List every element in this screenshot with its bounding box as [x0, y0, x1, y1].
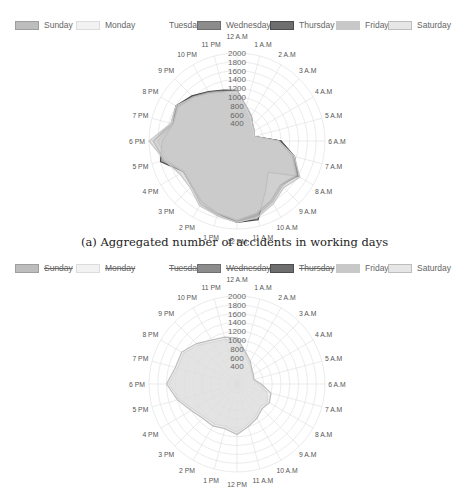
legend-swatch — [76, 264, 100, 273]
legend-label: Monday — [105, 20, 135, 30]
hour-label: 1 A.M — [254, 41, 272, 48]
hour-label: 9 PM — [158, 67, 174, 74]
hour-label: 9 A.M — [299, 451, 317, 458]
hour-label: 7 PM — [132, 355, 148, 362]
hour-label: 5 A.M — [325, 355, 343, 362]
legend-swatch — [270, 21, 294, 30]
hour-label: 11 A.M — [253, 477, 274, 484]
hour-label: 8 PM — [142, 331, 158, 338]
legend-bottom: SundayMondayTuesdayWednesdayThursdayFrid… — [0, 261, 469, 275]
hour-label: 2 A.M — [278, 51, 296, 58]
radial-tick-label: 400 — [230, 119, 244, 128]
legend-label: Saturday — [417, 263, 451, 273]
hour-label: 4 A.M — [315, 88, 333, 95]
radial-tick-label: 600 — [230, 111, 244, 120]
radial-tick-label: 1000 — [228, 93, 246, 102]
hour-label: 9 PM — [158, 310, 174, 317]
hour-label: 4 A.M — [315, 331, 333, 338]
hour-label: 11 PM — [202, 41, 221, 48]
radial-tick-label: 1800 — [228, 58, 246, 67]
hour-label: 6 PM — [129, 138, 145, 145]
hour-label: 11 PM — [202, 284, 221, 291]
legend-swatch — [140, 21, 164, 30]
hour-label: 4 PM — [142, 431, 158, 438]
hour-label: 6 PM — [129, 381, 145, 388]
legend-swatch — [336, 21, 360, 30]
hour-label: 12 PM — [227, 481, 247, 488]
legend-swatch — [76, 21, 100, 30]
hour-label: 7 PM — [132, 112, 148, 119]
legend-item-monday[interactable]: Monday — [76, 261, 135, 275]
legend-swatch — [197, 264, 221, 273]
legend-item-sunday[interactable]: Sunday — [15, 261, 73, 275]
legend-swatch — [140, 264, 164, 273]
legend-label: Thursday — [299, 20, 334, 30]
legend-item-friday[interactable]: Friday — [336, 261, 389, 275]
legend-item-wednesday[interactable]: Wednesday — [197, 261, 271, 275]
hour-label: 3 PM — [158, 451, 174, 458]
hour-label: 3 PM — [158, 208, 174, 215]
legend-swatch — [197, 21, 221, 30]
legend-swatch — [388, 21, 412, 30]
legend-label: Monday — [105, 263, 135, 273]
hour-label: 8 PM — [142, 88, 158, 95]
hour-label: 3 A.M — [299, 67, 317, 74]
radial-tick-label: 1000 — [228, 336, 246, 345]
hour-label: 10 A.M — [276, 224, 297, 231]
radial-tick-label: 2000 — [228, 292, 246, 301]
radar-chart-weekend: 40060080010001200140016001800200012 A.M1… — [0, 276, 469, 488]
legend-item-tuesday[interactable]: Tuesday — [140, 261, 201, 275]
legend-item-saturday[interactable]: Saturday — [388, 261, 451, 275]
radial-tick-label: 2000 — [228, 49, 246, 58]
hour-label: 6 A.M — [328, 381, 346, 388]
radial-tick-label: 600 — [230, 354, 244, 363]
hour-label: 10 PM — [177, 294, 197, 301]
hour-label: 1 A.M — [254, 284, 272, 291]
radial-tick-label: 400 — [230, 362, 244, 371]
radial-tick-label: 1600 — [228, 310, 246, 319]
hour-label: 6 A.M — [328, 138, 346, 145]
radar-chart-working-days: 40060080010001200140016001800200012 A.M1… — [0, 30, 469, 250]
hour-label: 9 A.M — [299, 208, 317, 215]
hour-label: 8 A.M — [315, 431, 333, 438]
hour-label: 12 A.M — [226, 276, 247, 283]
caption-a: (a) Aggregated number of accidents in wo… — [0, 235, 469, 249]
hour-label: 7 A.M — [325, 406, 343, 413]
legend-item-thursday[interactable]: Thursday — [270, 261, 334, 275]
legend-swatch — [15, 21, 39, 30]
radial-tick-label: 1600 — [228, 67, 246, 76]
hour-label: 2 PM — [179, 224, 195, 231]
legend-label: Sunday — [44, 20, 73, 30]
hour-label: 5 A.M — [325, 112, 343, 119]
radial-tick-label: 1800 — [228, 301, 246, 310]
legend-label: Saturday — [417, 20, 451, 30]
hour-label: 2 A.M — [278, 294, 296, 301]
hour-label: 5 PM — [132, 163, 148, 170]
legend-swatch — [270, 264, 294, 273]
legend-swatch — [15, 264, 39, 273]
radial-tick-label: 800 — [230, 345, 244, 354]
hour-label: 7 A.M — [325, 163, 343, 170]
legend-swatch — [388, 264, 412, 273]
legend-label: Wednesday — [226, 263, 271, 273]
hour-label: 3 A.M — [299, 310, 317, 317]
hour-label: 12 A.M — [226, 33, 247, 40]
legend-swatch — [336, 264, 360, 273]
radial-tick-label: 800 — [230, 102, 244, 111]
hour-label: 2 PM — [179, 467, 195, 474]
radial-tick-label: 1400 — [228, 318, 246, 327]
legend-label: Sunday — [44, 263, 73, 273]
hour-label: 1 PM — [203, 477, 219, 484]
legend-label: Thursday — [299, 263, 334, 273]
radial-tick-label: 1400 — [228, 75, 246, 84]
hour-label: 5 PM — [132, 406, 148, 413]
legend-label: Friday — [365, 263, 389, 273]
hour-label: 10 PM — [177, 51, 197, 58]
hour-label: 4 PM — [142, 188, 158, 195]
radial-tick-label: 1200 — [228, 327, 246, 336]
legend-label: Wednesday — [226, 20, 271, 30]
hour-label: 8 A.M — [315, 188, 333, 195]
legend-label: Friday — [365, 20, 389, 30]
radial-tick-label: 1200 — [228, 84, 246, 93]
hour-label: 10 A.M — [276, 467, 297, 474]
